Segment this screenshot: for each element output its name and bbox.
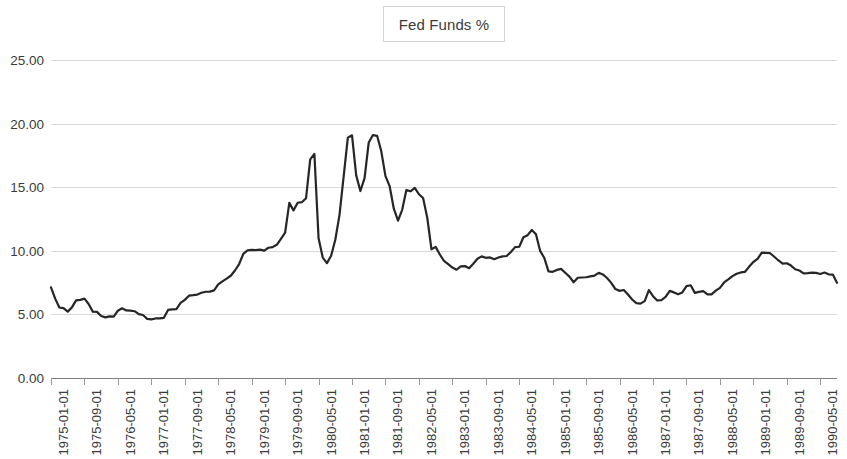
x-axis-tick bbox=[620, 378, 621, 385]
x-axis-label: 1984-05-01 bbox=[524, 389, 539, 456]
chart-legend[interactable]: Fed Funds % bbox=[383, 6, 505, 42]
y-axis-label: 15.00 bbox=[0, 180, 44, 195]
x-axis-tick bbox=[720, 378, 721, 385]
x-axis-label: 1979-01-01 bbox=[257, 389, 272, 456]
x-axis-tick bbox=[51, 378, 52, 385]
x-axis-label: 1979-09-01 bbox=[290, 389, 305, 456]
x-axis-label: 1981-01-01 bbox=[357, 389, 372, 456]
series-line-fed-funds bbox=[51, 60, 837, 378]
y-axis-label: 0.00 bbox=[0, 371, 44, 386]
x-axis-label: 1985-09-01 bbox=[591, 389, 606, 456]
x-axis-tick bbox=[787, 378, 788, 385]
x-axis-label: 1977-09-01 bbox=[190, 389, 205, 456]
x-axis-label: 1983-09-01 bbox=[491, 389, 506, 456]
x-axis-tick bbox=[452, 378, 453, 385]
x-axis-label: 1987-09-01 bbox=[691, 389, 706, 456]
x-axis-label: 1976-05-01 bbox=[123, 389, 138, 456]
x-axis-label: 1981-09-01 bbox=[390, 389, 405, 456]
legend-label-fed-funds: Fed Funds % bbox=[399, 16, 489, 33]
x-axis-label: 1978-05-01 bbox=[223, 389, 238, 456]
x-axis-tick bbox=[385, 378, 386, 385]
x-axis-tick bbox=[285, 378, 286, 385]
y-axis-label: 10.00 bbox=[0, 243, 44, 258]
x-axis-tick bbox=[820, 378, 821, 385]
y-axis-label: 5.00 bbox=[0, 307, 44, 322]
x-axis-label: 1988-05-01 bbox=[725, 389, 740, 456]
x-axis-label: 1977-01-01 bbox=[156, 389, 171, 456]
x-axis-label: 1990-05-01 bbox=[825, 389, 840, 456]
x-axis-tick bbox=[419, 378, 420, 385]
x-axis-tick bbox=[519, 378, 520, 385]
x-axis-label: 1989-01-01 bbox=[758, 389, 773, 456]
x-axis-tick bbox=[553, 378, 554, 385]
x-axis-label: 1980-05-01 bbox=[324, 389, 339, 456]
x-axis-tick bbox=[686, 378, 687, 385]
x-axis-label: 1975-09-01 bbox=[89, 389, 104, 456]
x-axis-label: 1987-01-01 bbox=[658, 389, 673, 456]
x-axis-tick bbox=[252, 378, 253, 385]
x-axis-tick bbox=[586, 378, 587, 385]
x-axis-label: 1985-01-01 bbox=[558, 389, 573, 456]
y-axis-label: 25.00 bbox=[0, 53, 44, 68]
x-axis-tick bbox=[486, 378, 487, 385]
x-axis-tick bbox=[151, 378, 152, 385]
x-axis-label: 1975-01-01 bbox=[56, 389, 71, 456]
x-axis-label: 1989-09-01 bbox=[792, 389, 807, 456]
plot-area: 0.005.0010.0015.0020.0025.00 1975-01-011… bbox=[51, 60, 837, 378]
x-axis-tick bbox=[319, 378, 320, 385]
x-axis-label: 1982-05-01 bbox=[424, 389, 439, 456]
x-axis-tick bbox=[753, 378, 754, 385]
x-axis-tick bbox=[218, 378, 219, 385]
x-axis-tick bbox=[653, 378, 654, 385]
fed-funds-chart: Fed Funds % 0.005.0010.0015.0020.0025.00… bbox=[0, 0, 847, 459]
series-path-fed-funds bbox=[51, 135, 837, 319]
y-axis-label: 20.00 bbox=[0, 116, 44, 131]
x-axis-tick bbox=[185, 378, 186, 385]
x-axis-tick bbox=[352, 378, 353, 385]
x-axis-tick bbox=[118, 378, 119, 385]
x-axis-label: 1986-05-01 bbox=[625, 389, 640, 456]
x-axis-tick bbox=[84, 378, 85, 385]
x-axis-label: 1983-01-01 bbox=[457, 389, 472, 456]
